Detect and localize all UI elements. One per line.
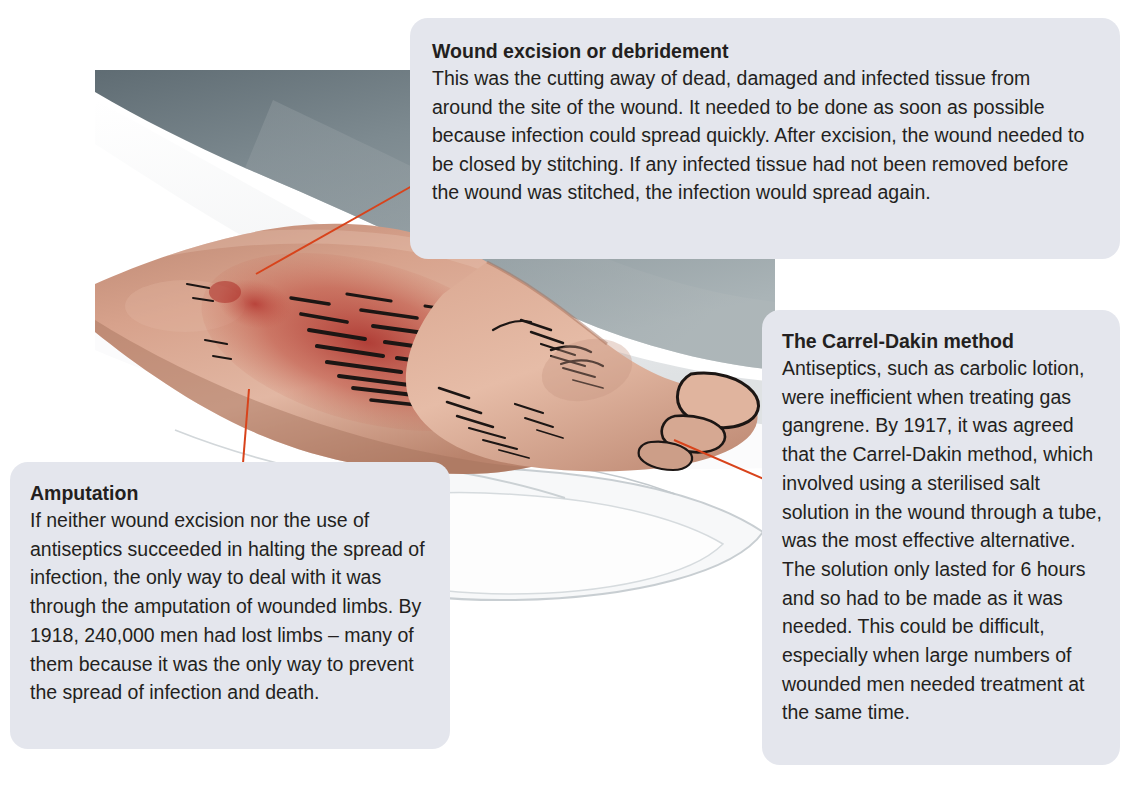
callout-wound-excision: Wound excision or debridement This was t… [410,18,1120,259]
callout-amputation: Amputation If neither wound excision nor… [10,462,450,749]
callout-title-wound-excision: Wound excision or debridement [432,38,1096,64]
callout-carrel-dakin: The Carrel-Dakin method Antiseptics, suc… [762,310,1120,765]
callout-title-carrel-dakin: The Carrel-Dakin method [782,328,1104,354]
wound-spot [209,281,241,303]
callout-body-amputation: If neither wound excision nor the use of… [30,506,432,707]
callout-body-wound-excision: This was the cutting away of dead, damag… [432,64,1096,207]
callout-title-amputation: Amputation [30,480,432,506]
callout-body-carrel-dakin: Antiseptics, such as carbolic lotion, we… [782,354,1104,727]
